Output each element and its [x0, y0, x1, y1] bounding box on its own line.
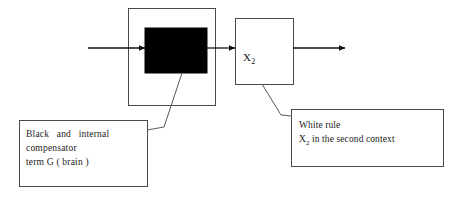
white-caption-line-2-rest: in the second context — [310, 134, 395, 144]
white-caption-line-1: White rule — [299, 118, 395, 132]
white-caption-line-2: X2 in the second context — [299, 132, 395, 150]
white-box-label-subscript: 2 — [251, 57, 255, 66]
white-caption-line-2-base: X — [299, 134, 306, 144]
black-box — [145, 28, 207, 73]
black-caption-text: Black and internal compensator term G ( … — [26, 127, 109, 169]
black-caption-line-1: Black and internal — [26, 127, 109, 141]
black-caption-line-3: term G ( brain ) — [26, 155, 109, 169]
white-caption-text: White rule X2 in the second context — [299, 118, 395, 150]
white-box-leader-line — [262, 84, 291, 116]
black-caption-line-2: compensator — [26, 141, 109, 155]
white-box-label: X2 — [243, 52, 255, 66]
white-box-label-base: X — [243, 51, 251, 63]
block-diagram-canvas: X2 Black and internal compensator term G… — [0, 0, 459, 198]
